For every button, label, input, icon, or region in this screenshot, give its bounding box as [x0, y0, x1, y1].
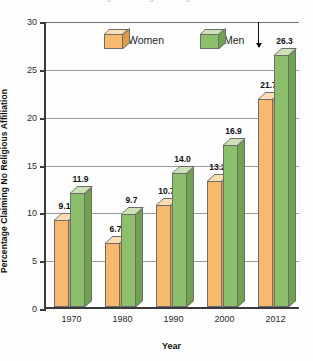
bar-men-2000	[223, 145, 238, 307]
y-axis-tick-label: 20	[27, 113, 37, 123]
bar-value-label: 14.0	[174, 154, 191, 164]
x-axis-tick-label: 1990	[163, 314, 183, 324]
bar-value-label: 11.9	[72, 174, 88, 184]
bar-men-2012	[274, 55, 289, 307]
legend-label-men: Men	[224, 34, 244, 46]
y-axis-tick	[40, 118, 46, 120]
y-axis-tick	[40, 70, 46, 72]
bar-women-1970	[54, 220, 69, 307]
bar-men-1980	[121, 214, 136, 307]
callout-arrow-icon	[258, 22, 259, 47]
bar-men-1970	[70, 193, 85, 307]
y-axis-tick	[40, 309, 46, 311]
chart-legend: Women Men	[104, 30, 244, 49]
y-axis-tick-label: 30	[27, 17, 37, 27]
y-axis-title: Percentage Claiming No Religious Affilia…	[0, 66, 9, 296]
chart-title-clipped: Percentage Claiming No Religious Affilia…	[40, 0, 280, 2]
x-axis-tick-label: 1980	[112, 314, 132, 324]
legend-label-women: Women	[128, 34, 164, 46]
y-axis-tick-label: 15	[27, 161, 37, 171]
chart-figure: Percentage Claiming No Religious Affilia…	[0, 0, 313, 361]
bar-women-1990	[156, 205, 171, 307]
x-axis-tick-label: 2012	[265, 314, 285, 324]
legend-item-women: Women	[104, 30, 164, 49]
gridline	[46, 22, 299, 23]
y-axis-tick	[40, 22, 46, 24]
bar-value-label: 9.7	[126, 195, 138, 205]
bar-women-2000	[207, 181, 222, 307]
bar-women-1980	[105, 243, 120, 307]
bar-women-2012	[258, 99, 273, 307]
y-axis-tick	[40, 213, 46, 215]
bar-value-label: 16.9	[225, 126, 242, 136]
x-axis-tick-label: 1970	[61, 314, 81, 324]
y-axis-tick	[40, 261, 46, 263]
legend-item-men: Men	[200, 30, 244, 49]
plot-area: 0510152025309.111.96.79.710.714.013.216.…	[44, 22, 299, 309]
legend-swatch-men-icon	[200, 30, 219, 49]
y-axis-tick-label: 0	[32, 304, 37, 314]
y-axis-tick-label: 5	[32, 256, 37, 266]
gridline	[46, 70, 299, 71]
y-axis-tick-label: 10	[27, 208, 37, 218]
bar-men-1990	[172, 173, 187, 307]
x-axis-title: Year	[44, 341, 299, 351]
legend-swatch-women-icon	[104, 30, 123, 49]
x-axis-tick-label: 2000	[214, 314, 234, 324]
y-axis-tick-label: 25	[27, 65, 37, 75]
y-axis-tick	[40, 166, 46, 168]
bar-value-label: 26.3	[276, 36, 293, 46]
